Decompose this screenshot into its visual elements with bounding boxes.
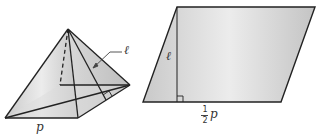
figure: ℓ p ℓ 1 2 p xyxy=(0,0,319,140)
pyramid-slant-label: ℓ xyxy=(124,44,129,56)
diagram-svg xyxy=(0,0,319,140)
parallelogram-base-var: p xyxy=(210,108,218,120)
square-pyramid xyxy=(5,29,130,118)
fraction-denominator: 2 xyxy=(201,117,209,125)
parallelogram-height-label: ℓ xyxy=(166,50,171,62)
pyramid-base-label: p xyxy=(36,121,44,133)
fraction-numerator: 1 xyxy=(201,106,209,114)
